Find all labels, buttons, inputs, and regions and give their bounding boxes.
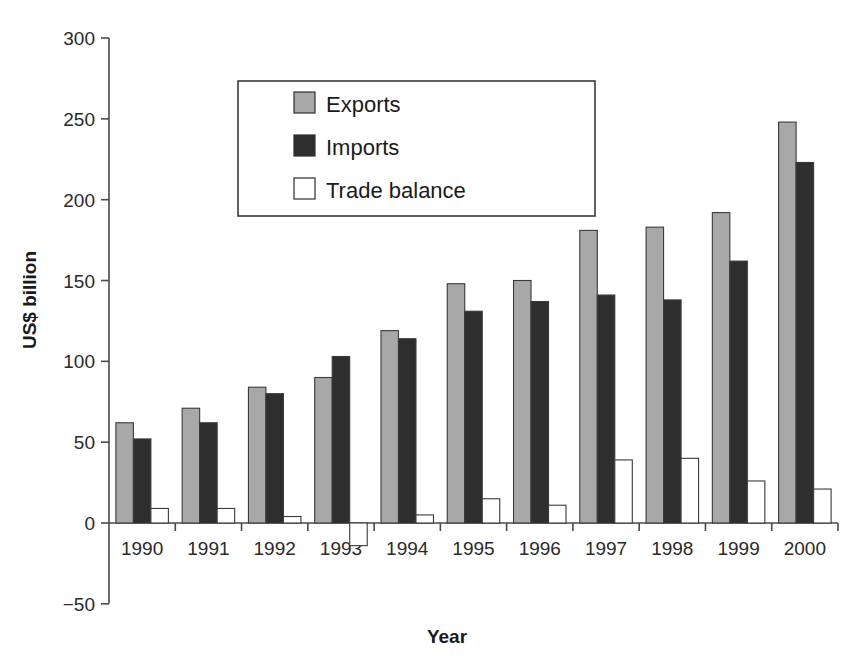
- bar-imports-1994: [398, 339, 416, 523]
- bar-trade-balance-1990: [151, 508, 169, 523]
- bar-exports-1997: [580, 230, 598, 523]
- bar-imports-1995: [465, 311, 483, 523]
- bar-group-1996: [514, 281, 567, 524]
- x-tick-label-2000: 2000: [784, 538, 826, 559]
- bar-imports-1991: [200, 423, 218, 523]
- y-tick-label: 300: [63, 28, 95, 49]
- bar-trade-balance-1994: [416, 515, 434, 523]
- x-tick-label-1996: 1996: [519, 538, 561, 559]
- chart-canvas: −500501001502002503001990199119921993199…: [0, 0, 854, 669]
- x-tick-label-1998: 1998: [651, 538, 693, 559]
- bar-imports-1990: [133, 439, 151, 523]
- bar-exports-1996: [514, 281, 532, 524]
- bar-group-1997: [580, 230, 633, 523]
- y-tick-label: 0: [84, 513, 95, 534]
- y-tick-label: 250: [63, 109, 95, 130]
- y-tick-label: 50: [74, 432, 95, 453]
- bar-group-1998: [646, 227, 699, 523]
- y-axis-title: US$ billion: [19, 251, 40, 349]
- bar-group-1991: [182, 408, 235, 523]
- legend-label-imports: Imports: [326, 135, 399, 160]
- bar-exports-1993: [315, 378, 333, 524]
- x-axis-title: Year: [427, 626, 468, 647]
- chart-legend: ExportsImportsTrade balance: [238, 81, 595, 216]
- bar-group-1999: [712, 213, 765, 523]
- bar-group-2000: [779, 122, 832, 523]
- bar-imports-1996: [531, 302, 549, 523]
- bar-group-1992: [248, 387, 301, 523]
- y-tick-label: −50: [63, 594, 95, 615]
- bar-group-1994: [381, 331, 434, 523]
- bar-trade-balance-1992: [283, 517, 301, 523]
- x-tick-label-1992: 1992: [254, 538, 296, 559]
- x-tick-label-1999: 1999: [717, 538, 759, 559]
- y-tick-label: 200: [63, 190, 95, 211]
- bar-imports-1999: [730, 261, 748, 523]
- legend-swatch-exports: [294, 92, 315, 113]
- trade-bar-chart: −500501001502002503001990199119921993199…: [0, 0, 854, 669]
- bar-exports-1992: [248, 387, 266, 523]
- bar-trade-balance-1996: [549, 505, 567, 523]
- bar-trade-balance-1993: [350, 523, 368, 546]
- bar-group-1993: [315, 356, 368, 545]
- bar-exports-1994: [381, 331, 399, 523]
- bar-exports-1998: [646, 227, 664, 523]
- bar-trade-balance-1995: [482, 499, 500, 523]
- bar-group-1990: [116, 423, 169, 523]
- legend-label-trade-balance: Trade balance: [326, 178, 466, 203]
- bar-exports-2000: [779, 122, 797, 523]
- x-tick-label-1991: 1991: [187, 538, 229, 559]
- bar-exports-1991: [182, 408, 200, 523]
- legend-label-exports: Exports: [326, 92, 401, 117]
- x-tick-label-1994: 1994: [386, 538, 429, 559]
- bar-trade-balance-1998: [681, 458, 699, 523]
- x-tick-label-1995: 1995: [452, 538, 494, 559]
- bar-trade-balance-1999: [747, 481, 765, 523]
- y-tick-label: 150: [63, 271, 95, 292]
- bar-trade-balance-2000: [814, 489, 832, 523]
- bar-trade-balance-1991: [217, 508, 235, 523]
- bar-exports-1990: [116, 423, 134, 523]
- x-tick-label-1990: 1990: [121, 538, 163, 559]
- legend-swatch-trade-balance: [294, 178, 315, 199]
- bar-group-1995: [447, 284, 500, 523]
- x-axis-ticks: 1990199119921993199419951996199719981999…: [121, 523, 838, 559]
- bar-trade-balance-1997: [615, 460, 633, 523]
- bar-imports-1992: [266, 394, 284, 523]
- bar-exports-1995: [447, 284, 465, 523]
- bar-imports-1997: [597, 295, 615, 523]
- bar-imports-2000: [796, 162, 814, 523]
- bar-imports-1993: [332, 356, 350, 523]
- bar-imports-1998: [664, 300, 682, 523]
- legend-swatch-imports: [294, 135, 315, 156]
- bar-exports-1999: [712, 213, 730, 523]
- x-tick-label-1997: 1997: [585, 538, 627, 559]
- y-axis-ticks: −50050100150200250300: [63, 28, 109, 615]
- y-tick-label: 100: [63, 351, 95, 372]
